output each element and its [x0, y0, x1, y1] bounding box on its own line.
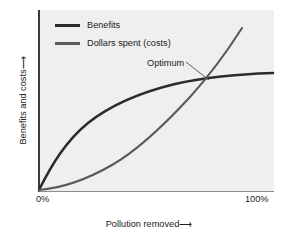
legend-item-costs[interactable]: Dollars spent (costs)	[55, 37, 171, 50]
x-axis-title-text: Pollution removed	[106, 219, 180, 229]
chart-figure: Benefits Dollars spent (costs) Optimum 0…	[0, 0, 298, 243]
optimum-annotation-label: Optimum	[147, 58, 184, 69]
y-axis-title: Benefits and costs⟶	[18, 16, 29, 186]
optimum-leader-line	[186, 62, 209, 80]
x-axis-title: Pollution removed⟶	[0, 219, 298, 230]
legend-swatch-costs	[55, 42, 80, 45]
x-axis-arrow-icon: ⟶	[179, 219, 192, 229]
series-line-costs	[39, 28, 242, 190]
x-axis-tick-left: 0%	[36, 194, 49, 205]
x-axis-tick-right: 100%	[245, 194, 269, 205]
legend-label-costs: Dollars spent (costs)	[87, 38, 171, 49]
legend-item-benefits[interactable]: Benefits	[55, 19, 171, 32]
y-axis-arrow-icon: ⟶	[18, 56, 28, 69]
chart-legend: Benefits Dollars spent (costs)	[55, 19, 171, 50]
legend-label-benefits: Benefits	[87, 20, 120, 31]
y-axis-title-text: Benefits and costs	[18, 69, 28, 144]
legend-swatch-benefits	[55, 24, 80, 27]
